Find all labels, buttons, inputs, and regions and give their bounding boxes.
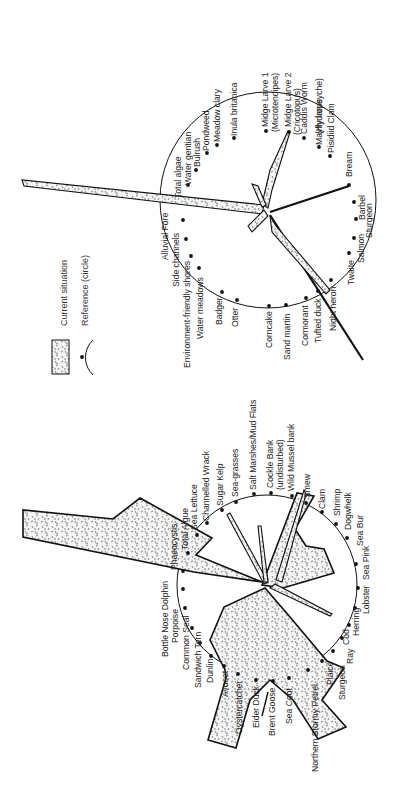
svg-text:Pisidiid Clam: Pisidiid Clam <box>326 103 336 153</box>
svg-text:Ray: Ray <box>345 648 355 664</box>
svg-text:Common Seal: Common Seal <box>181 615 191 670</box>
svg-text:Inula britanica: Inula britanica <box>229 82 239 136</box>
svg-text:Sea-grasses: Sea-grasses <box>230 449 240 497</box>
svg-text:Caddis Worm: Caddis Worm <box>299 82 309 134</box>
svg-text:Shrimp: Shrimp <box>332 489 342 516</box>
svg-text:Alluvial Fore: Alluvial Fore <box>160 212 170 260</box>
legend-current-swatch <box>52 340 69 374</box>
upper-reference-dots <box>181 129 358 308</box>
svg-text:Sandwich Tern: Sandwich Tern <box>193 632 203 688</box>
svg-text:Oystercatcher: Oystercatcher <box>234 680 244 734</box>
svg-text:Dogwhelk: Dogwhelk <box>343 492 353 530</box>
svg-text:Cormorant: Cormorant <box>300 305 310 346</box>
svg-text:Total algae: Total algae <box>173 156 183 198</box>
legend-reference-dot <box>80 355 84 359</box>
svg-text:Plaice: Plaice <box>325 661 335 685</box>
svg-text:Smew: Smew <box>302 473 312 498</box>
svg-text:Eider Duck: Eider Duck <box>251 685 261 728</box>
svg-text:Badger: Badger <box>214 297 224 325</box>
legend-reference-label: Reference (circle) <box>80 255 90 326</box>
svg-text:(undisturbed): (undisturbed) <box>275 439 285 490</box>
svg-text:(Microtendipes): (Microtendipes) <box>270 73 280 132</box>
svg-text:Lobster: Lobster <box>361 585 371 614</box>
svg-text:Sand martin: Sand martin <box>282 313 292 360</box>
svg-text:Cod: Cod <box>341 629 351 645</box>
svg-text:Environment-friendly shores: Environment-friendly shores <box>182 261 192 368</box>
svg-text:Bottle Nose Dolphin: Bottle Nose Dolphin <box>160 581 170 657</box>
upper-line-bream <box>270 186 349 212</box>
svg-text:Sturgeon: Sturgeon <box>364 203 374 238</box>
svg-text:Bream: Bream <box>344 152 354 177</box>
svg-text:Salt Marshes/Mud Flats: Salt Marshes/Mud Flats <box>248 400 258 490</box>
upper-amoeba-diagram: Total algae Water gentian Bulrush Pondwe… <box>22 72 376 368</box>
svg-text:Tufted duck: Tufted duck <box>313 298 323 343</box>
lower-poly-algae <box>23 498 262 582</box>
svg-text:Cockle Bank: Cockle Bank <box>265 439 275 488</box>
svg-text:Wild Mussel bank: Wild Mussel bank <box>286 423 296 491</box>
svg-text:Twaite: Twaite <box>346 260 356 285</box>
svg-text:Sea Lettuce: Sea Lettuce <box>189 484 199 530</box>
svg-text:Pondweed: Pondweed <box>201 110 211 151</box>
legend: Current situation Reference (circle) <box>52 255 93 375</box>
svg-text:Dunlin: Dunlin <box>205 658 215 683</box>
lower-amoeba-diagram: Phaeocystis Total Algue Sea Lettuce Chan… <box>23 400 371 772</box>
svg-text:Channelled Wrack: Channelled Wrack <box>201 450 211 521</box>
svg-text:Sturgeon: Sturgeon <box>337 665 347 700</box>
upper-spoke-midge-larve-2 <box>262 131 290 208</box>
svg-text:Porpoise: Porpoise <box>170 609 180 643</box>
svg-text:Sea Pink: Sea Pink <box>361 545 371 580</box>
svg-text:Mayfly larve: Mayfly larve <box>314 99 324 145</box>
svg-text:Sea Bur: Sea Bur <box>355 515 365 546</box>
svg-text:Corncake: Corncake <box>264 311 274 348</box>
svg-text:Herring: Herring <box>351 608 361 636</box>
amoeba-diagram-figure: Total algae Water gentian Bulrush Pondwe… <box>0 0 400 811</box>
svg-text:Clam: Clam <box>317 489 327 509</box>
legend-reference-arc <box>85 340 93 375</box>
svg-text:Otter: Otter <box>230 308 240 327</box>
svg-text:Side channels: Side channels <box>171 233 181 287</box>
svg-text:Sugar Kelp: Sugar Kelp <box>215 463 225 506</box>
svg-text:Avocet: Avocet <box>220 670 230 697</box>
svg-text:Salmon: Salmon <box>356 234 366 263</box>
svg-text:Midge Larve 1: Midge Larve 1 <box>260 72 270 127</box>
svg-text:Phaeocystis: Phaeocystis <box>169 524 179 570</box>
svg-text:Sea Coot: Sea Coot <box>284 688 294 724</box>
svg-text:Northern Stormy Petrel: Northern Stormy Petrel <box>310 684 320 772</box>
svg-text:Water meadows: Water meadows <box>195 277 205 339</box>
svg-text:Brent Goose: Brent Goose <box>267 688 277 736</box>
upper-labels: Total algae Water gentian Bulrush Pondwe… <box>160 72 374 368</box>
svg-text:Night heron: Night heron <box>328 286 338 331</box>
upper-bar-total-algae <box>22 180 264 214</box>
legend-current-label: Current situation <box>59 260 69 326</box>
svg-text:Meadow clary: Meadow clary <box>212 88 222 142</box>
